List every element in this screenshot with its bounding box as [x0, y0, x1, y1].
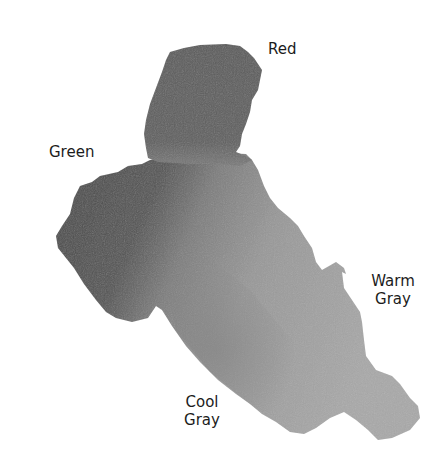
label-cool-gray-line2: Gray	[180, 411, 224, 429]
label-green-text: Green	[49, 143, 94, 161]
label-cool-gray-line1: Cool	[180, 393, 224, 411]
label-cool-gray: Cool Gray	[180, 393, 224, 429]
label-warm-gray: Warm Gray	[366, 272, 420, 308]
label-warm-gray-line2: Gray	[366, 290, 420, 308]
label-warm-gray-line1: Warm	[366, 272, 420, 290]
label-red-text: Red	[268, 40, 297, 58]
label-green: Green	[49, 143, 94, 161]
label-red: Red	[268, 40, 297, 58]
red-wash	[144, 44, 262, 166]
